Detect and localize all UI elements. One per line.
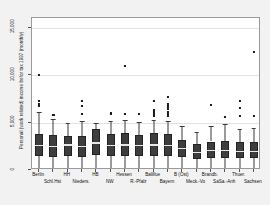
whisker-lower <box>82 157 83 168</box>
outlier-point <box>210 104 212 106</box>
cap-upper <box>237 129 242 130</box>
median-line <box>193 152 201 153</box>
x-tick-label-sachsen: Sachsen <box>244 180 262 185</box>
outlier-point <box>167 108 169 110</box>
outlier-point <box>81 100 83 102</box>
whisker-lower <box>253 158 254 168</box>
whisker-lower <box>239 158 240 168</box>
x-tick-mark-3 <box>81 169 82 172</box>
median-line <box>150 144 158 145</box>
outlier-point <box>238 107 240 109</box>
outlier-point <box>238 115 240 117</box>
whisker-lower <box>153 156 154 168</box>
x-tick-label-berlin: Berlin <box>32 173 44 178</box>
outlier-point <box>153 100 155 102</box>
whisker-upper <box>153 120 154 133</box>
median-line <box>121 144 129 145</box>
boxplot-sa-anh <box>221 18 229 169</box>
outlier-point <box>38 74 40 76</box>
boxplot-nieders- <box>78 18 86 169</box>
outlier-point <box>153 109 155 111</box>
cap-upper <box>252 128 257 129</box>
median-line <box>135 145 143 146</box>
boxplot-bayern <box>164 18 172 169</box>
x-tick-label-sasa-anh: SaSa.-Anh <box>213 180 235 185</box>
outlier-point <box>110 112 112 114</box>
cap-upper <box>180 126 185 127</box>
boxplot-b-ost- <box>178 18 186 169</box>
x-tick-label-b-ost-: B (Ost) <box>174 173 189 178</box>
x-tick-mark-15 <box>253 169 254 172</box>
cap-upper <box>80 121 85 122</box>
outlier-point <box>167 106 169 108</box>
cap-upper <box>94 123 99 124</box>
outlier-point <box>167 103 169 105</box>
cap-upper <box>151 120 156 121</box>
x-tick-label-meck-vo: Meck.-Vo <box>186 180 205 185</box>
cap-upper <box>137 122 142 123</box>
cap-upper <box>51 119 56 120</box>
outlier-point <box>167 115 169 117</box>
whisker-lower <box>182 157 183 168</box>
y-tick-label-0: 0 <box>11 154 16 184</box>
x-tick-label-hb: HB <box>92 173 98 178</box>
cap-upper <box>123 120 128 121</box>
boxplot-thuer- <box>236 18 244 169</box>
outlier-point <box>153 113 155 115</box>
median-line <box>78 146 86 147</box>
outlier-point <box>81 105 83 107</box>
whisker-lower <box>196 159 197 169</box>
cap-upper <box>209 126 214 127</box>
y-tick-label-5000: 5,000 <box>11 106 16 136</box>
outlier-point <box>124 113 126 115</box>
x-tick-mark-9 <box>167 169 168 172</box>
whisker-upper <box>253 128 254 142</box>
outlier-point <box>81 113 83 115</box>
box-iqr <box>64 136 72 156</box>
outlier-point <box>224 116 226 118</box>
outlier-point <box>38 100 40 102</box>
x-tick-label-nieders-: Nieders. <box>73 180 90 185</box>
plot-panel <box>31 17 260 169</box>
whisker-lower <box>67 156 68 168</box>
whisker-lower <box>225 158 226 168</box>
x-tick-label-brandb-: Brandb. <box>202 173 218 178</box>
median-line <box>35 145 43 146</box>
boxplot-sachsen <box>250 18 258 169</box>
whisker-upper <box>196 132 197 144</box>
outlier-point <box>167 96 169 98</box>
boxplot-berlin <box>35 18 43 169</box>
whisker-upper <box>239 129 240 142</box>
boxplot-nw <box>107 18 115 169</box>
whisker-lower <box>53 157 54 168</box>
boxplot-hh <box>64 18 72 169</box>
whisker-lower <box>39 156 40 168</box>
x-tick-mark-13 <box>224 169 225 172</box>
median-line <box>92 142 100 143</box>
median-line <box>250 151 258 152</box>
whisker-upper <box>125 120 126 133</box>
outlier-point <box>138 113 140 115</box>
outlier-point <box>52 114 54 116</box>
boxplot-hb <box>92 18 100 169</box>
whisker-upper <box>225 124 226 140</box>
outlier-point <box>124 65 126 67</box>
outlier-point <box>38 103 40 105</box>
cap-upper <box>37 112 42 113</box>
outlier-point <box>238 100 240 102</box>
whisker-lower <box>167 156 168 168</box>
outlier-point <box>167 113 169 115</box>
whisker-upper <box>167 121 168 134</box>
x-tick-label-hessen: Hessen <box>116 173 132 178</box>
outlier-point <box>153 115 155 117</box>
cap-upper <box>223 124 228 125</box>
outlier-point <box>153 111 155 113</box>
whisker-lower <box>139 156 140 168</box>
cap-upper <box>166 121 171 122</box>
whisker-upper <box>67 123 68 135</box>
whisker-lower <box>96 155 97 168</box>
cap-upper <box>108 121 113 122</box>
median-line <box>221 150 229 151</box>
cap-upper <box>65 123 70 124</box>
x-tick-mark-5 <box>110 169 111 172</box>
